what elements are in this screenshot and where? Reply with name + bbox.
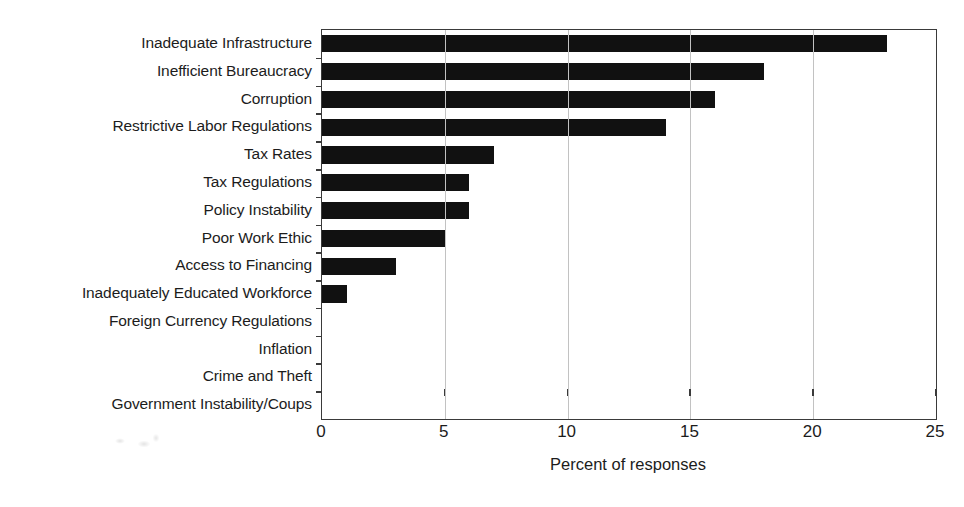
bar: [322, 91, 715, 108]
category-label: Foreign Currency Regulations: [0, 307, 317, 335]
bar-row: [322, 308, 936, 336]
bar: [322, 258, 396, 275]
bar-row: [322, 280, 936, 308]
x-axis-tick: [812, 389, 813, 396]
category-label: Corruption: [0, 85, 317, 113]
y-axis-tick: [316, 86, 322, 88]
category-label: Government Instability/Coups: [0, 390, 317, 418]
category-label: Policy Instability: [0, 196, 317, 224]
x-axis-title: Percent of responses: [321, 455, 935, 474]
bar-row: [322, 363, 936, 391]
bar: [322, 63, 764, 80]
x-axis-tick-label: 25: [926, 422, 945, 442]
bar-row: [322, 58, 936, 86]
category-label: Inefficient Bureaucracy: [0, 57, 317, 85]
category-label: Inadequately Educated Workforce: [0, 279, 317, 307]
bar: [322, 230, 445, 247]
y-axis-tick: [316, 113, 322, 115]
y-axis-tick: [316, 58, 322, 60]
chart-page: Inadequate InfrastructureInefficient Bur…: [0, 0, 964, 507]
x-axis-tick-label: 0: [316, 422, 325, 442]
category-label: Poor Work Ethic: [0, 224, 317, 252]
category-label: Crime and Theft: [0, 362, 317, 390]
y-axis-tick: [316, 336, 322, 338]
bar-row: [322, 169, 936, 197]
x-axis-tick-label: 5: [439, 422, 448, 442]
x-axis-tick-label: 15: [680, 422, 699, 442]
category-label: Tax Rates: [0, 140, 317, 168]
bar: [322, 174, 469, 191]
scan-artifact: [108, 432, 172, 452]
bar: [322, 285, 347, 302]
bar-row: [322, 336, 936, 364]
y-axis-tick: [316, 280, 322, 282]
category-label: Inflation: [0, 335, 317, 363]
plot-inner: [322, 30, 936, 419]
y-axis-tick: [316, 141, 322, 143]
gridline: [568, 30, 569, 419]
bar-row: [322, 391, 936, 419]
bar: [322, 146, 494, 163]
y-axis-tick: [316, 252, 322, 254]
plot-area: [321, 29, 937, 420]
y-axis-tick: [316, 169, 322, 171]
gridline: [813, 30, 814, 419]
bar-row: [322, 197, 936, 225]
bar-row: [322, 30, 936, 58]
bar: [322, 119, 666, 136]
y-axis-tick: [316, 363, 322, 365]
y-axis-tick: [316, 197, 322, 199]
bar-row: [322, 113, 936, 141]
bar: [322, 202, 469, 219]
x-axis-tick: [321, 389, 322, 396]
category-label: Inadequate Infrastructure: [0, 29, 317, 57]
x-axis-tick: [935, 389, 936, 396]
y-axis-tick: [316, 308, 322, 310]
category-label: Restrictive Labor Regulations: [0, 112, 317, 140]
category-label: Tax Regulations: [0, 168, 317, 196]
category-axis-labels: Inadequate InfrastructureInefficient Bur…: [0, 29, 317, 418]
x-axis-tick: [567, 389, 568, 396]
bar-row: [322, 252, 936, 280]
bar-row: [322, 225, 936, 253]
bar-row: [322, 86, 936, 114]
x-axis-tick-label: 20: [803, 422, 822, 442]
x-axis-tick-label: 10: [557, 422, 576, 442]
gridline: [445, 30, 446, 419]
x-axis-tick: [444, 389, 445, 396]
gridline: [690, 30, 691, 419]
x-axis-tick: [689, 389, 690, 396]
category-label: Access to Financing: [0, 251, 317, 279]
bar-row: [322, 141, 936, 169]
bar: [322, 35, 887, 52]
y-axis-tick: [316, 225, 322, 227]
